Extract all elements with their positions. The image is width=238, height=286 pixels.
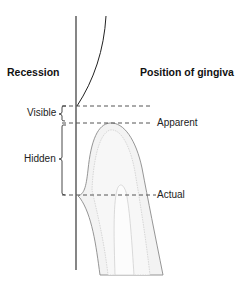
tooth-illustration bbox=[78, 123, 163, 275]
visible-bracket bbox=[59, 106, 66, 121]
recession-heading: Recession bbox=[7, 66, 60, 78]
gingiva-curve bbox=[77, 16, 106, 106]
gingiva-position-heading: Position of gingiva bbox=[140, 66, 234, 78]
apparent-label: Apparent bbox=[157, 117, 198, 129]
hidden-label: Hidden bbox=[24, 153, 56, 165]
gingival-recession-diagram bbox=[0, 0, 238, 286]
hidden-bracket bbox=[59, 125, 66, 195]
actual-label: Actual bbox=[157, 189, 185, 201]
visible-label: Visible bbox=[27, 107, 56, 119]
